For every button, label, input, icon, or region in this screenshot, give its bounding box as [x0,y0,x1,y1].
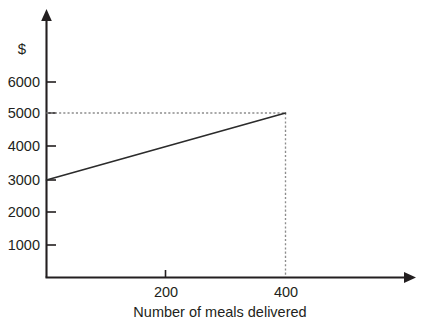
y-tick-label-6000: 6000 [0,75,40,90]
y-axis-label: $ [18,41,26,56]
x-tick-label-200: 200 [154,285,178,300]
y-tick-label-2000: 2000 [0,205,40,220]
y-tick-label-4000: 4000 [0,139,40,154]
cost-line-chart: $ 6000 5000 4000 3000 2000 1000 200 400 … [0,0,423,325]
cost-series-line [47,113,286,180]
x-tick-label-400: 400 [274,285,298,300]
x-axis-title: Number of meals delivered [133,305,306,320]
x-axis-arrow-icon [404,272,416,283]
y-tick-label-1000: 1000 [0,238,40,253]
chart-plot-area [0,0,423,325]
y-tick-label-5000: 5000 [0,106,40,121]
y-axis-arrow-icon [41,9,52,21]
y-tick-label-3000: 3000 [0,173,40,188]
